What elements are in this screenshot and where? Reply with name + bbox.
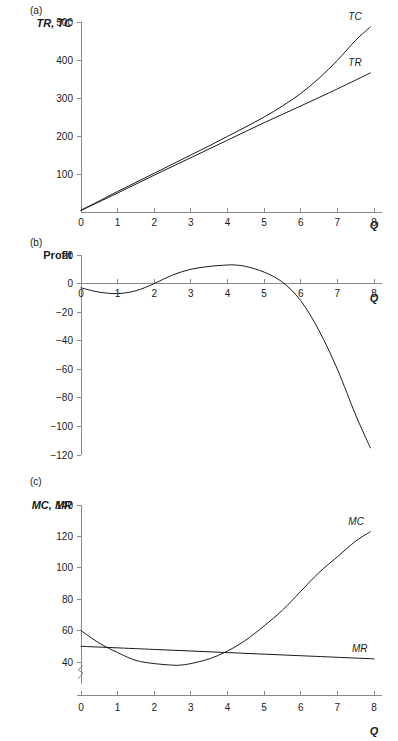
series-curve-tr [81, 73, 370, 211]
x-tick-label: 3 [188, 288, 194, 299]
panel-b-plot-area: 200−20−40−60−80−100−120012345678 [50, 250, 382, 461]
y-tick-label: 60 [62, 625, 74, 636]
series-curve-mc [81, 532, 370, 666]
chart-a-svg: (a) TR, TC Q 100200300400500012345678TCT… [0, 0, 398, 232]
y-tick-label: 100 [56, 562, 73, 573]
x-tick-label: 2 [151, 217, 157, 228]
series-label-tc: TC [348, 11, 362, 22]
x-tick-label: 1 [115, 217, 121, 228]
economics-figure: (a) TR, TC Q 100200300400500012345678TCT… [0, 0, 398, 741]
y-tick-label: 0 [67, 278, 73, 289]
series-curve-tc [81, 27, 370, 210]
chart-panel-a: (a) TR, TC Q 100200300400500012345678TCT… [0, 0, 398, 232]
x-tick-label: 8 [371, 288, 377, 299]
x-tick-label: 6 [298, 217, 304, 228]
x-tick-label: 0 [78, 702, 84, 713]
x-tick-label: 0 [78, 217, 84, 228]
series-label-mc: MC [348, 516, 364, 527]
x-tick-label: 5 [261, 217, 267, 228]
x-tick-label: 7 [335, 288, 341, 299]
x-tick-label: 7 [335, 702, 341, 713]
y-tick-label: 100 [56, 169, 73, 180]
chart-b-svg: (b) Profit Q 200−20−40−60−80−100−1200123… [0, 232, 398, 467]
x-tick-label: 3 [188, 702, 194, 713]
x-tick-label: 2 [151, 702, 157, 713]
panel-c-tag: (c) [30, 476, 42, 487]
chart-c-svg: (c) MC, MR Q 406080100120140012345678MCM… [0, 467, 398, 741]
y-tick-label: 80 [62, 594, 74, 605]
panel-a-plot-area: 100200300400500012345678TCTR [56, 11, 382, 228]
y-tick-label: 20 [62, 250, 74, 261]
x-tick-label: 5 [261, 288, 267, 299]
series-curve-mr [81, 646, 374, 659]
y-tick-label: 140 [56, 500, 73, 511]
y-tick-label: 40 [62, 657, 74, 668]
chart-panel-c: (c) MC, MR Q 406080100120140012345678MCM… [0, 467, 398, 741]
x-tick-label: 2 [151, 288, 157, 299]
y-tick-label: 400 [56, 55, 73, 66]
panel-c-x-axis-title: Q [370, 725, 379, 737]
x-tick-label: 4 [225, 217, 231, 228]
y-tick-label: 200 [56, 131, 73, 142]
y-tick-label: 120 [56, 531, 73, 542]
series-label-mr: MR [352, 643, 368, 654]
y-tick-label: 300 [56, 93, 73, 104]
panel-c-plot-area: 406080100120140012345678MCMR [56, 500, 382, 714]
y-tick-label: −120 [50, 450, 73, 461]
x-tick-label: 4 [225, 288, 231, 299]
y-tick-label: −60 [56, 364, 73, 375]
y-tick-label: −100 [50, 421, 73, 432]
panel-b-tag: (b) [30, 237, 42, 248]
y-tick-label: −40 [56, 335, 73, 346]
series-label-tr: TR [348, 57, 361, 68]
y-tick-label: 500 [56, 17, 73, 28]
x-tick-label: 0 [78, 288, 84, 299]
x-tick-label: 7 [335, 217, 341, 228]
x-tick-label: 6 [298, 702, 304, 713]
y-tick-label: −80 [56, 392, 73, 403]
y-tick-label: −20 [56, 307, 73, 318]
x-tick-label: 6 [298, 288, 304, 299]
chart-panel-b: (b) Profit Q 200−20−40−60−80−100−1200123… [0, 232, 398, 467]
x-tick-label: 4 [225, 702, 231, 713]
x-tick-label: 3 [188, 217, 194, 228]
panel-a-tag: (a) [30, 5, 42, 16]
x-tick-label: 5 [261, 702, 267, 713]
x-tick-label: 1 [115, 702, 121, 713]
x-tick-label: 8 [371, 217, 377, 228]
x-tick-label: 8 [371, 702, 377, 713]
